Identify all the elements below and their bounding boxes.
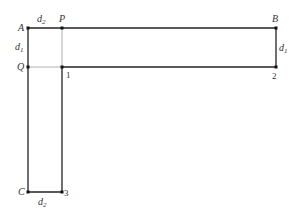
dim-d2-bottom: d2 bbox=[38, 196, 47, 209]
dim-d1-right: d1 bbox=[279, 42, 288, 55]
point-c-marker bbox=[27, 191, 30, 194]
label-3: 3 bbox=[64, 188, 69, 198]
label-q: Q bbox=[17, 61, 25, 72]
point-2-marker bbox=[275, 66, 278, 69]
label-2: 2 bbox=[272, 71, 277, 81]
label-b: B bbox=[272, 13, 278, 24]
point-p-marker bbox=[61, 27, 64, 30]
label-c: C bbox=[18, 186, 25, 197]
l-shape-diagram: A P B Q 1 2 C 3 d2 d1 d1 d2 bbox=[0, 0, 301, 215]
label-p: P bbox=[58, 13, 65, 24]
dim-d1-left: d1 bbox=[15, 41, 24, 54]
point-1-marker bbox=[61, 66, 64, 69]
point-b-marker bbox=[275, 27, 278, 30]
label-1: 1 bbox=[66, 70, 71, 80]
point-a-marker bbox=[27, 27, 30, 30]
point-q-marker bbox=[27, 66, 30, 69]
label-a: A bbox=[17, 22, 25, 33]
dim-d2-top: d2 bbox=[37, 13, 46, 26]
